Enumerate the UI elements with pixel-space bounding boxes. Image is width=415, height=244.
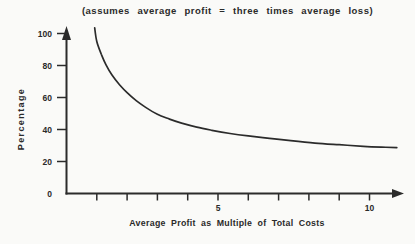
y-tick-label: 40	[43, 125, 53, 135]
chart-canvas: 020406080100510	[0, 0, 415, 244]
y-tick-label: 0	[47, 189, 52, 199]
y-tick-label: 100	[38, 29, 52, 39]
chart-title: (assumes average profit = three times av…	[40, 5, 415, 16]
x-tick-label: 5	[216, 203, 221, 213]
y-axis-title: Percentage	[16, 86, 28, 152]
y-tick-label: 60	[43, 93, 53, 103]
data-curve	[95, 28, 397, 148]
breakeven-percentage-chart: (assumes average profit = three times av…	[0, 0, 415, 244]
x-axis-title: Average Profit as Multiple of Total Cost…	[96, 218, 358, 228]
x-axis-arrowhead	[392, 189, 404, 198]
y-tick-label: 80	[43, 61, 53, 71]
x-tick-label: 10	[365, 203, 375, 213]
y-tick-label: 20	[43, 157, 53, 167]
